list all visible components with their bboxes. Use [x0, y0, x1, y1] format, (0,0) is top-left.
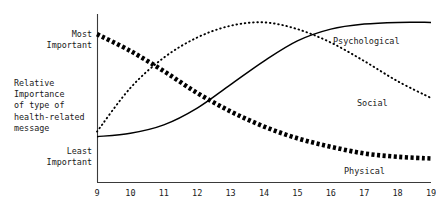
series-label-psychological: Psychological: [333, 36, 400, 46]
chart-figure: Most Important Relative Importance of ty…: [0, 0, 436, 207]
chart-plot-area: Psychological Social Physical 9 10 11 12…: [0, 0, 436, 207]
x-tick-label-10: 10: [125, 188, 135, 198]
x-tick-label-17: 17: [359, 188, 369, 198]
x-tick-label-16: 16: [326, 188, 336, 198]
x-tick-label-14: 14: [259, 188, 269, 198]
x-tick-label-9: 9: [94, 188, 99, 198]
x-tick-label-19: 19: [426, 188, 436, 198]
x-tick-label-12: 12: [192, 188, 202, 198]
x-tick-label-15: 15: [292, 188, 302, 198]
series-line-physical: [97, 34, 431, 158]
x-tick-label-18: 18: [392, 188, 402, 198]
x-tick-label-13: 13: [225, 188, 235, 198]
series-label-social: Social: [357, 98, 388, 108]
series-label-physical: Physical: [344, 166, 385, 176]
x-tick-label-11: 11: [159, 188, 169, 198]
